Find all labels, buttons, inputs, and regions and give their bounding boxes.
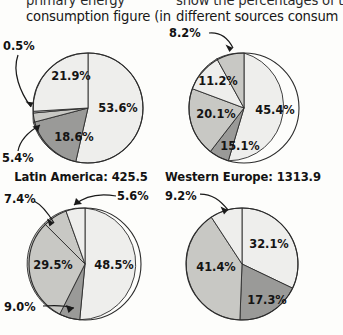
leader-arrowhead-5-6 [74,198,82,205]
pie-label-8-2: 8.2% [169,26,201,40]
chart-cell-bottom-right: 32.1% 17.3% 41.4% 9.2% [162,186,324,335]
pie-label-20-1: 20.1% [196,107,236,121]
caption-latin-america: Latin America: 425.5 [0,170,162,184]
pie-label-29-5: 29.5% [33,258,73,272]
pie-chart-top-left: 53.6% 21.9% 18.6% 0.5% 5.4% [0,28,162,168]
header-text-left: primary energy consumption figure (in [26,0,171,24]
pie-label-9-0: 9.0% [4,300,36,314]
pie-chart-bottom-right: 32.1% 17.3% 41.4% 9.2% [162,186,324,335]
header-right-line-2: different sources consum [176,9,343,25]
pie-label-5-6: 5.6% [117,189,149,203]
pie-label-5-4: 5.4% [2,151,34,165]
pie-label-17-3: 17.3% [247,293,287,307]
pie-label-11-2: 11.2% [198,74,238,88]
pie-label-32-1: 32.1% [249,237,289,251]
header-right-line-1: show the percentages of t [176,0,343,9]
header-text-right: show the percentages of t different sour… [176,0,343,24]
pie-label-53-6: 53.6% [98,101,138,115]
pie-label-9-2: 9.2% [165,189,197,203]
chart-cell-top-right: 45.4% 15.1% 20.1% 11.2% 8.2% Western Eur… [162,28,324,168]
leader-line-0-5 [16,55,31,107]
chart-cell-bottom-left: 48.5% 29.5% 7.4% 5.6% 9.0% [0,186,162,335]
leader-line-9-2 [200,194,228,210]
leader-arrowhead-0-5 [26,102,34,108]
pie-label-18-6: 18.6% [54,130,94,144]
pie-label-15-1: 15.1% [220,139,260,153]
caption-western-europe: Western Europe: 1313.9 [162,170,324,184]
pie-label-41-4: 41.4% [196,260,236,274]
pie-chart-bottom-left: 48.5% 29.5% 7.4% 5.6% 9.0% [0,186,162,335]
pie-label-45-4: 45.4% [255,103,295,117]
pie-label-7-4: 7.4% [4,192,36,206]
chart-cell-top-left: 53.6% 21.9% 18.6% 0.5% 5.4% [0,28,162,168]
leader-line-8-2 [209,33,233,48]
pie-label-48-5: 48.5% [94,258,134,272]
header-left-line-2: consumption figure (in [26,9,171,25]
pie-label-0-5: 0.5% [3,39,35,53]
pie-label-21-9: 21.9% [51,69,91,83]
pie-chart-top-right: 45.4% 15.1% 20.1% 11.2% 8.2% [162,28,324,168]
header-left-line-1: primary energy [26,0,171,9]
